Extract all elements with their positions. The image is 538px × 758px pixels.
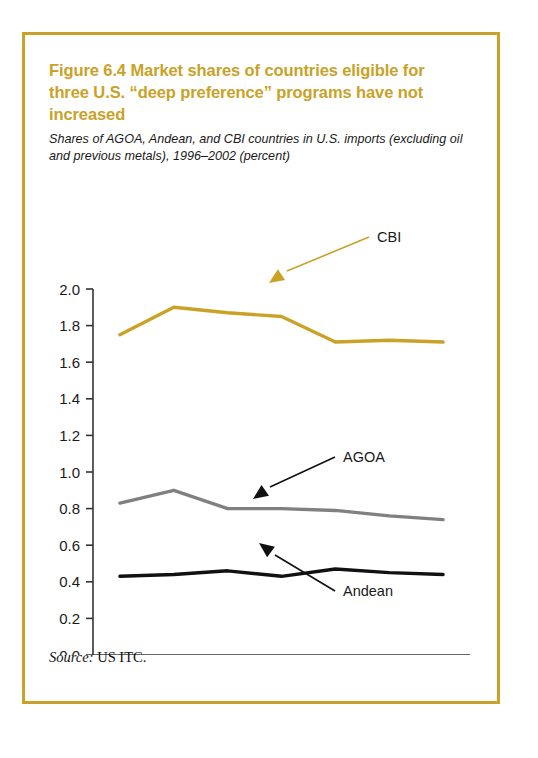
y-axis: 0.00.20.40.60.81.01.21.41.61.82.0 — [59, 281, 93, 656]
annotation-leader-line — [270, 457, 335, 487]
series-lines — [120, 307, 443, 576]
y-axis-tick-label: 1.0 — [59, 464, 80, 481]
annotation-label: Andean — [343, 583, 393, 599]
y-axis-tick-label: 0.4 — [59, 573, 80, 590]
y-axis-tick-label: 1.6 — [59, 354, 80, 371]
y-axis-tick-label: 2.0 — [59, 281, 80, 298]
source-value: US ITC. — [97, 649, 146, 665]
figure-subtitle: Shares of AGOA, Andean, and CBI countrie… — [49, 131, 469, 164]
y-axis-tick-label: 1.2 — [59, 427, 80, 444]
annotation-agoa: AGOA — [253, 449, 385, 499]
series-line-cbi — [120, 307, 443, 342]
annotation-cbi: CBI — [269, 229, 401, 283]
figure-panel: Figure 6.4 Market shares of countries el… — [22, 32, 500, 704]
figure-title: Figure 6.4 Market shares of countries el… — [49, 59, 449, 125]
figure-inner: Figure 6.4 Market shares of countries el… — [25, 35, 497, 701]
chart-plot-area: 0.00.20.40.60.81.01.21.41.61.82.0 199619… — [25, 195, 503, 655]
annotation-arrowhead — [269, 269, 285, 283]
annotation-leader-line — [275, 555, 335, 591]
series-annotations: CBIAGOAAndean — [253, 229, 401, 599]
series-line-andean — [120, 569, 443, 576]
y-axis-tick-label: 0.8 — [59, 500, 80, 517]
y-axis-tick-label: 0.2 — [59, 610, 80, 627]
source-note: Source: US ITC. — [49, 649, 146, 666]
line-chart: 0.00.20.40.60.81.01.21.41.61.82.0 199619… — [25, 195, 503, 655]
source-label: Source: — [49, 649, 94, 665]
y-axis-tick-label: 1.4 — [59, 390, 80, 407]
annotation-label: AGOA — [343, 449, 385, 465]
series-line-agoa — [120, 490, 443, 519]
annotation-arrowhead — [259, 543, 275, 557]
annotation-label: CBI — [377, 229, 401, 245]
y-axis-tick-label: 0.6 — [59, 537, 80, 554]
annotation-arrowhead — [253, 485, 269, 499]
annotation-leader-line — [287, 237, 369, 271]
y-axis-tick-label: 1.8 — [59, 317, 80, 334]
